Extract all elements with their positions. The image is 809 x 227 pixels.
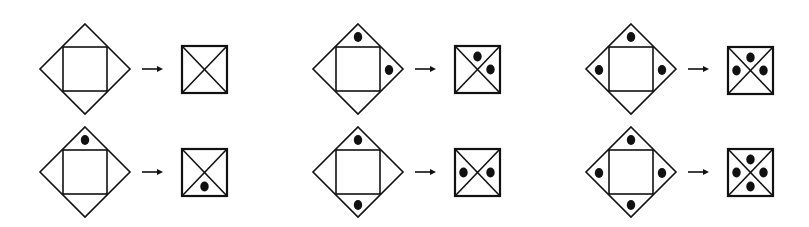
pair-r2c2	[313, 127, 500, 217]
inner-square	[336, 150, 380, 194]
arrow-icon	[142, 66, 163, 72]
input-dot-top	[354, 135, 362, 145]
output-dot-top	[746, 53, 754, 63]
pair-r1c1	[40, 24, 227, 114]
input-dot-right	[658, 168, 666, 178]
inner-square	[63, 47, 107, 91]
output-dot-right	[486, 65, 494, 75]
output-dot-right	[759, 66, 767, 76]
input-dot-left	[595, 168, 603, 178]
arrow-icon	[688, 169, 709, 175]
input-dot-bottom	[627, 200, 635, 210]
output-dot-top	[473, 52, 481, 62]
pair-r1c3	[586, 24, 773, 114]
output-dot-bottom	[746, 182, 754, 192]
output-dot-left	[732, 66, 740, 76]
output-dot-bottom	[200, 182, 208, 192]
pair-r1c2	[313, 24, 500, 114]
arrow-icon	[415, 169, 436, 175]
inner-square	[609, 150, 653, 194]
input-dot-top	[627, 32, 635, 42]
output-dot-right	[486, 168, 494, 178]
input-dot-right	[385, 65, 393, 75]
figure-canvas	[0, 0, 809, 227]
arrow-icon	[688, 66, 709, 72]
diamond-outline	[40, 24, 130, 114]
inner-square	[336, 47, 380, 91]
input-dot-right	[658, 65, 666, 75]
arrow-icon	[142, 169, 163, 175]
input-dot-left	[595, 65, 603, 75]
arrow-icon	[415, 66, 436, 72]
pair-r2c3	[586, 127, 773, 217]
pair-r2c1	[40, 127, 227, 217]
output-dot-right	[759, 168, 767, 178]
transformation-diagram	[0, 0, 809, 227]
input-dot-bottom	[354, 200, 362, 210]
input-dot-top	[81, 135, 89, 145]
output-dot-left	[459, 168, 467, 178]
input-dot-top	[354, 32, 362, 42]
output-dot-top	[746, 155, 754, 165]
input-dot-top	[627, 135, 635, 145]
inner-square	[609, 47, 653, 91]
output-dot-left	[732, 168, 740, 178]
inner-square	[63, 150, 107, 194]
